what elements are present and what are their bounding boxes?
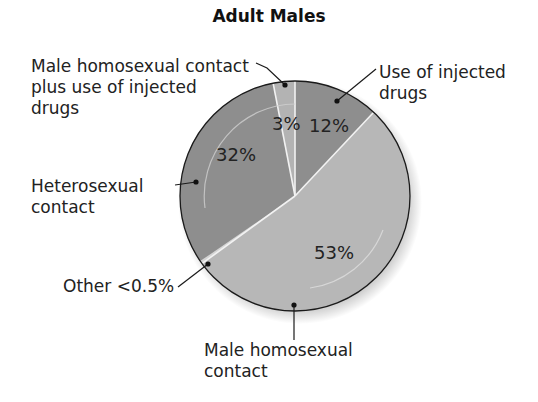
- pct-label-idu: 12%: [309, 115, 349, 136]
- callout-hetero-line1: Heterosexual: [31, 176, 143, 197]
- callout-mhc-plus-idu-line1: Male homosexual contact: [31, 56, 249, 77]
- callout-mhc-plus-idu: Male homosexual contact plus use of inje…: [31, 56, 249, 119]
- callout-other: Other <0.5%: [63, 276, 174, 297]
- callout-mhc-line2: contact: [204, 361, 353, 382]
- callout-hetero: Heterosexual contact: [31, 176, 143, 218]
- pct-label-hetero: 32%: [216, 144, 256, 165]
- callout-mhc-plus-idu-line2: plus use of injected: [31, 77, 249, 98]
- callout-idu-line1: Use of injected: [379, 62, 506, 83]
- callout-other-text: Other <0.5%: [63, 276, 174, 297]
- pct-label-mhc-idu: 3%: [272, 113, 301, 134]
- callout-mhc-line1: Male homosexual: [204, 340, 353, 361]
- callout-hetero-line2: contact: [31, 197, 143, 218]
- callout-mhc: Male homosexual contact: [204, 340, 353, 382]
- pct-label-mhc: 53%: [314, 242, 354, 263]
- callout-idu: Use of injected drugs: [379, 62, 506, 104]
- callout-idu-line2: drugs: [379, 83, 506, 104]
- callout-mhc-plus-idu-line3: drugs: [31, 98, 249, 119]
